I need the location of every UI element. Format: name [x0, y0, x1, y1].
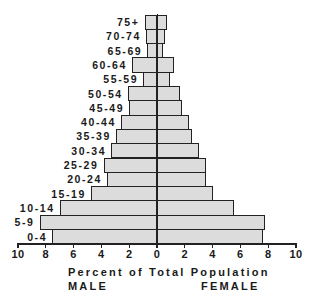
male-bar [40, 215, 158, 230]
female-bar [157, 72, 170, 87]
center-axis-line [157, 14, 159, 245]
male-bar [132, 57, 157, 72]
female-bar [157, 29, 165, 44]
age-group-label: 20-24 [67, 172, 102, 186]
female-bar [157, 172, 206, 187]
x-axis-tick-label: 2 [117, 248, 141, 260]
male-bar [52, 229, 157, 244]
female-bar [157, 15, 167, 30]
male-bar [91, 186, 157, 201]
female-bar [157, 158, 206, 173]
female-bar [157, 215, 265, 230]
age-group-label: 5-9 [15, 215, 35, 229]
male-bar [107, 172, 157, 187]
female-bar [157, 186, 213, 201]
female-bar [157, 115, 189, 130]
age-group-label: 35-39 [76, 129, 111, 143]
female-bar [157, 86, 180, 101]
x-axis-tick-label: 2 [173, 248, 197, 260]
x-axis-tick-label: 8 [34, 248, 58, 260]
x-axis-tick-label: 10 [284, 248, 308, 260]
x-axis-tick-label: 10 [6, 248, 30, 260]
male-bar [146, 29, 157, 44]
male-bar [121, 115, 157, 130]
female-side-label: FEMALE [201, 280, 259, 292]
male-bar [60, 200, 157, 215]
x-axis-tick-label: 6 [62, 248, 86, 260]
x-axis-tick-label: 4 [201, 248, 225, 260]
female-bar [157, 200, 234, 215]
age-group-label: 70-74 [106, 29, 141, 43]
age-group-label: 0-4 [27, 230, 47, 244]
male-bar [129, 100, 157, 115]
female-bar [157, 129, 192, 144]
age-group-label: 15-19 [51, 187, 86, 201]
female-bar [157, 229, 263, 244]
male-bar [128, 86, 157, 101]
age-group-label: 45-49 [89, 101, 124, 115]
age-group-label: 10-14 [20, 201, 55, 215]
male-side-label: MALE [68, 280, 108, 292]
male-bar [111, 143, 157, 158]
age-group-label: 55-59 [103, 72, 138, 86]
age-group-label: 40-44 [81, 115, 116, 129]
age-group-label: 30-34 [71, 144, 106, 158]
age-group-label: 50-54 [88, 87, 123, 101]
male-bar [104, 158, 158, 173]
female-bar [157, 143, 199, 158]
male-bar [116, 129, 157, 144]
x-axis-tick-label: 4 [89, 248, 113, 260]
x-axis-tick-label: 0 [145, 248, 169, 260]
female-bar [157, 57, 174, 72]
male-bar [145, 15, 158, 30]
population-pyramid-chart: 75+70-7465-6960-6455-5950-5445-4940-4435… [0, 0, 310, 301]
age-group-label: 60-64 [92, 58, 127, 72]
female-bar [157, 100, 182, 115]
age-group-label: 65-69 [107, 44, 142, 58]
age-group-label: 75+ [117, 15, 140, 29]
x-axis-tick-label: 8 [256, 248, 280, 260]
x-axis-tick-label: 6 [228, 248, 252, 260]
age-group-label: 25-29 [64, 158, 99, 172]
x-axis-title: Percent of Total Population [68, 266, 270, 278]
male-bar [143, 72, 157, 87]
